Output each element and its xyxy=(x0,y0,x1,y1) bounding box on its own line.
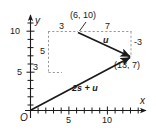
x-axis-label: x xyxy=(140,96,145,106)
component-label-left-rise: 5 xyxy=(40,47,45,56)
vector-diagram-figure: 10 5 5 10 x y O (6, 10) (13, 7) u 2s + u… xyxy=(0,0,156,134)
vector-label-u: u xyxy=(103,36,109,45)
y-tick-label-10: 10 xyxy=(10,27,20,36)
point-label-13-7: (13, 7) xyxy=(114,61,140,70)
component-label-left-base: 3 xyxy=(33,63,38,72)
axis-x xyxy=(25,107,146,115)
y-axis-label: y xyxy=(35,16,40,26)
origin-label: O xyxy=(20,113,28,123)
vector-label-2s-plus-u: 2s + u xyxy=(72,84,98,93)
component-label-left-run: 3 xyxy=(59,22,64,31)
component-label-u-rise: -3 xyxy=(134,38,142,47)
callout-leader-6-10 xyxy=(80,22,87,31)
y-tick-label-5: 5 xyxy=(17,68,22,77)
x-tick-label-10: 10 xyxy=(102,116,112,125)
component-label-u-run: 7 xyxy=(105,22,110,31)
point-label-6-10: (6, 10) xyxy=(70,11,96,20)
x-tick-label-5: 5 xyxy=(66,116,71,125)
